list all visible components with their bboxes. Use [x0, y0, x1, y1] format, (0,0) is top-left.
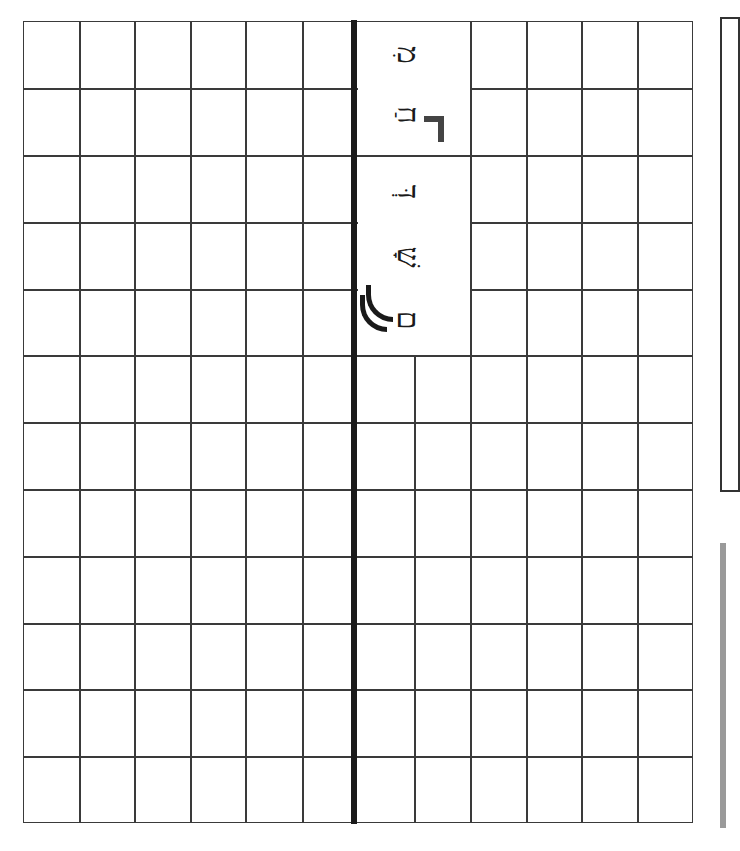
grid-row-line: [24, 556, 692, 558]
side-panel: [720, 17, 740, 492]
text-cell-upper: מִ חַ: [358, 22, 470, 155]
hebrew-glyph: חַ: [393, 95, 423, 135]
text-cell-lower: דְּ שָׁ ם: [358, 157, 470, 355]
grid-column-line: [414, 355, 416, 822]
grid-row-line: [24, 422, 692, 424]
center-divider: [351, 20, 357, 824]
hebrew-glyph: ם: [393, 300, 423, 340]
corner-bracket-icon: [424, 116, 444, 142]
arc-mark-icon: [360, 295, 387, 332]
grid-row-line: [24, 489, 692, 491]
grid-row-line: [24, 355, 692, 357]
scrollbar[interactable]: [720, 543, 726, 828]
grid-row-line: [24, 623, 692, 625]
grid-row-line: [24, 689, 692, 691]
handwriting-grid: מִ חַ דְּ שָׁ ם: [23, 21, 693, 823]
hebrew-glyph: מִ: [393, 35, 423, 75]
grid-row-line: [24, 756, 692, 758]
hebrew-glyph: שָׁ: [393, 237, 423, 277]
hebrew-glyph: דְּ: [393, 172, 423, 212]
